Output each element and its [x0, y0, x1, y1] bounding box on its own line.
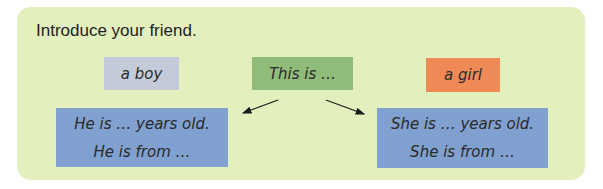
arrow-right-icon: [326, 100, 364, 114]
arrows: [0, 0, 603, 189]
arrow-left-icon: [243, 100, 278, 113]
